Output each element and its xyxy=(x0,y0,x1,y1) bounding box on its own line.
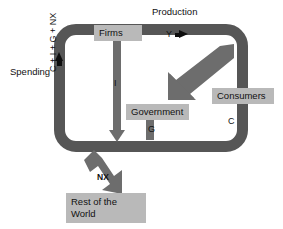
flow-label-nx: NX xyxy=(97,172,109,182)
node-consumers: Consumers xyxy=(212,88,274,104)
flow-label-c: C xyxy=(228,116,235,126)
flow-label-y: Y xyxy=(166,29,172,39)
production-label: Production xyxy=(152,6,197,17)
investment-flow-arrow-head xyxy=(109,130,125,142)
flow-label-i: I xyxy=(114,78,117,88)
flow-label-g: G xyxy=(148,124,155,134)
node-rest-of-the-world-line1: Rest of the xyxy=(71,196,141,208)
node-government: Government xyxy=(126,104,189,120)
production-arrow-head-icon xyxy=(179,30,188,38)
circular-flow-diagram: Production Spending Y C G I NX C + I + G… xyxy=(0,0,283,229)
node-firms: Firms xyxy=(94,25,142,41)
flow-label-total-spending: C + I + G + NX xyxy=(48,0,58,72)
spending-label: Spending xyxy=(10,66,50,77)
node-rest-of-the-world: Rest of the World xyxy=(66,193,146,223)
node-rest-of-the-world-line2: World xyxy=(71,208,141,220)
